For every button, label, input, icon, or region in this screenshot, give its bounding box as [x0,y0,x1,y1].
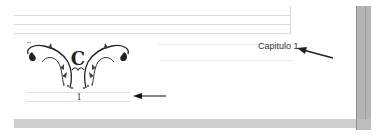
scrollbar-corner [356,119,371,130]
document-page: C 1 Capitulo 1 [0,0,356,118]
horizontal-scrollbar[interactable] [14,119,356,128]
header-right-margin-line [290,6,291,34]
header-guide-line-3 [14,33,290,34]
vertical-scrollbar[interactable] [356,6,371,130]
header-guide-line-1 [14,15,290,16]
header-guide-line-2 [14,24,290,25]
chapter-ornament-image[interactable]: C [24,40,132,92]
scrollbar-groove [365,6,366,130]
chapter-title[interactable]: Capitulo 1 [258,41,299,51]
page-number: 1 [74,91,84,102]
arrow-to-chapter-title-icon [295,45,335,61]
arrow-to-page-number-icon [132,91,168,101]
ornament-initial: C [71,48,85,69]
text-frame-line-bottom [160,60,293,61]
